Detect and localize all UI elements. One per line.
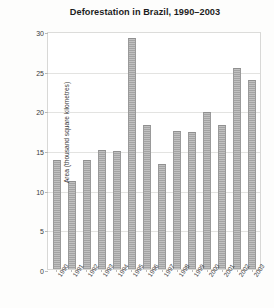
bar-slot xyxy=(154,33,169,269)
bar-slot xyxy=(94,33,109,269)
x-tick-slot: 1996 xyxy=(139,272,154,306)
bar-slot xyxy=(244,33,259,269)
bar xyxy=(98,150,106,269)
y-tick-label: 15 xyxy=(36,149,44,156)
x-tick-slot: 1994 xyxy=(109,272,124,306)
bar-slot xyxy=(79,33,94,269)
plot-area: 051015202530 Area (thousand square kilom… xyxy=(47,32,261,270)
bar xyxy=(248,80,256,269)
bar-slot xyxy=(169,33,184,269)
y-tick-label: 25 xyxy=(36,69,44,76)
y-axis-label: Area (thousand square kilometres) xyxy=(63,58,70,208)
x-axis-labels: 1990199119921993199419951996199719981999… xyxy=(47,272,261,306)
bar-slot xyxy=(124,33,139,269)
x-tick-slot: 1990 xyxy=(48,272,63,306)
x-tick-slot: 1998 xyxy=(169,272,184,306)
bar xyxy=(83,160,91,269)
x-tick-slot: 1993 xyxy=(93,272,108,306)
bar xyxy=(143,125,151,269)
x-tick-slot: 2002 xyxy=(230,272,245,306)
bar-slot xyxy=(109,33,124,269)
bar-slot xyxy=(139,33,154,269)
x-tick-slot: 1991 xyxy=(63,272,78,306)
bar-slot xyxy=(199,33,214,269)
x-tick-slot: 2000 xyxy=(199,272,214,306)
chart-title: Deforestation in Brazil, 1990–2003 xyxy=(0,7,274,17)
y-tick-label: 30 xyxy=(36,30,44,37)
bar xyxy=(218,125,226,269)
bar xyxy=(188,132,196,269)
x-tick-slot: 2003 xyxy=(245,272,260,306)
y-tick-label: 10 xyxy=(36,188,44,195)
bar xyxy=(113,151,121,269)
bar-series xyxy=(48,33,260,269)
x-tick-slot: 1997 xyxy=(154,272,169,306)
x-tick-slot: 1992 xyxy=(78,272,93,306)
y-tick-label: 0 xyxy=(40,268,44,275)
bar xyxy=(173,131,181,269)
bar xyxy=(233,68,241,270)
x-tick-slot: 1999 xyxy=(184,272,199,306)
bar xyxy=(128,38,136,269)
x-tick-slot: 2001 xyxy=(215,272,230,306)
bar xyxy=(203,112,211,269)
bar xyxy=(158,164,166,269)
bar xyxy=(53,160,61,269)
bar-slot xyxy=(184,33,199,269)
bar-slot xyxy=(229,33,244,269)
x-tick-slot: 1995 xyxy=(124,272,139,306)
bar-slot xyxy=(214,33,229,269)
y-tick-label: 20 xyxy=(36,109,44,116)
y-tick-label: 5 xyxy=(40,228,44,235)
chart-figure: Deforestation in Brazil, 1990–2003 05101… xyxy=(0,0,274,308)
